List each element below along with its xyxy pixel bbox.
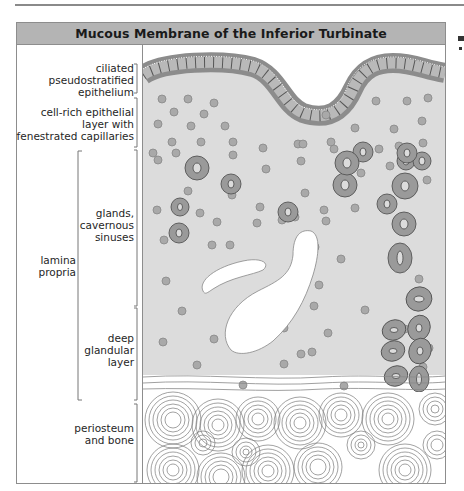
- cut-off-text-mark: [459, 47, 462, 50]
- gland: [335, 151, 359, 175]
- bracket-bone: [134, 404, 137, 482]
- bracket-glands: [134, 150, 137, 306]
- gland: [392, 212, 416, 236]
- gland: [171, 198, 189, 216]
- gland: [388, 243, 412, 273]
- bracket-cell-rich: [134, 98, 137, 147]
- gland: [392, 173, 418, 199]
- gland: [169, 223, 189, 243]
- gland: [278, 202, 298, 222]
- gland: [221, 174, 241, 194]
- bracket-lamina-propria: [78, 151, 82, 400]
- bracket-epithelium: [134, 64, 137, 93]
- cut-off-text-mark: [458, 36, 464, 41]
- gland: [409, 366, 429, 392]
- gland: [377, 194, 397, 214]
- gland: [185, 156, 209, 180]
- gland: [333, 173, 357, 197]
- turbinate-mucosa-illustration: [143, 45, 445, 483]
- gland: [397, 143, 417, 163]
- label-brackets: [0, 0, 150, 491]
- bracket-deep-glandular: [134, 308, 137, 400]
